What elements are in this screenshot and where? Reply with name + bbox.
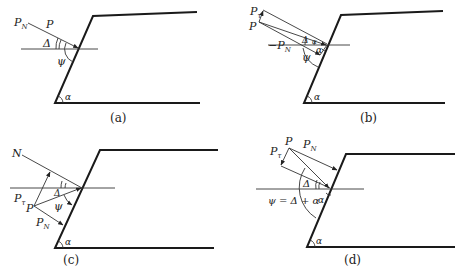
delta-angle-arc	[61, 181, 62, 188]
slope-outline	[307, 154, 455, 247]
caption-a: (a)	[110, 111, 127, 125]
label-p: P	[45, 18, 54, 31]
alpha-angle-arc	[58, 96, 63, 103]
panel-d: P Pτ PN Δ ψ = Δ + α α α (d)	[256, 135, 455, 267]
label-pn: PN	[302, 138, 317, 153]
label-n: N	[11, 147, 22, 160]
panel-a: PN P Δ ψ α (a)	[13, 12, 200, 125]
label-alpha-mid: α	[316, 45, 322, 55]
label-p-tau: Pτ	[269, 145, 281, 160]
label-p: P	[25, 202, 34, 215]
label-p: P	[248, 20, 257, 33]
psi-angle-arc	[64, 195, 72, 205]
label-alpha: α	[316, 236, 322, 246]
delta-angle-arc-inner	[59, 40, 61, 49]
label-pn: PN	[35, 216, 50, 231]
label-delta: Δ	[53, 188, 61, 198]
label-neg-pn: −PN	[268, 39, 292, 54]
slope-outline	[304, 11, 445, 103]
label-delta: Δ	[302, 178, 310, 189]
label-p-tau: Pτ	[13, 192, 25, 207]
p-tau-arrow	[281, 148, 289, 165]
label-pn: PN	[13, 16, 28, 31]
alpha-angle-arc	[310, 240, 315, 247]
panel-c: N Pτ P PN Δ ψ α (c)	[10, 147, 218, 267]
label-delta: Δ	[301, 35, 309, 45]
label-alpha-mid: α	[318, 195, 324, 205]
label-alpha: α	[314, 92, 320, 102]
psi-angle-arc	[65, 43, 73, 62]
caption-c: (c)	[63, 253, 79, 267]
normal-line-n	[22, 155, 82, 188]
caption-d: (d)	[344, 253, 361, 267]
label-p: P	[284, 135, 293, 148]
label-psi: ψ	[54, 200, 63, 213]
caption-b: (b)	[360, 111, 377, 125]
label-alpha: α	[65, 92, 71, 102]
panel-b: Pτ P −PN Δ α α ψ α (b)	[248, 5, 445, 125]
label-p-tau: Pτ	[249, 5, 261, 20]
slope-outline	[55, 12, 200, 103]
delta-angle-arc-inner	[65, 183, 66, 188]
label-delta: Δ	[42, 37, 51, 50]
alpha-angle-arc	[307, 96, 312, 103]
label-equation: ψ = Δ + α	[268, 195, 320, 206]
slope-force-diagram-figure: PN P Δ ψ α (a) Pτ P −PN Δ α α ψ α (b)	[0, 0, 459, 276]
label-psi: ψ	[57, 55, 66, 68]
slope-outline	[55, 150, 218, 248]
label-alpha: α	[65, 237, 71, 247]
delta-angle-arc	[56, 38, 58, 49]
label-psi: ψ	[302, 51, 311, 64]
